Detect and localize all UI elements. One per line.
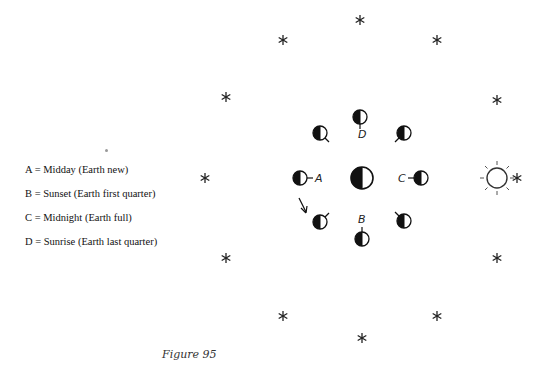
label-a: A <box>314 172 323 185</box>
star-icon <box>222 92 231 102</box>
star-icon <box>279 35 288 45</box>
label-b: B <box>358 213 366 226</box>
star-icon <box>358 333 367 343</box>
moon-position-bottom-left <box>313 213 329 229</box>
star-icon <box>493 253 502 263</box>
speck <box>105 149 108 152</box>
star-icon <box>433 311 442 321</box>
legend-item-b: B = Sunset (Earth first quarter) <box>25 187 157 211</box>
legend-item-c: C = Midnight (Earth full) <box>25 211 157 235</box>
legend-item-d: D = Sunrise (Earth last quarter) <box>25 235 157 259</box>
star-icon <box>279 311 288 321</box>
moon-position-a <box>293 171 313 185</box>
moon-position-top-left <box>313 126 329 142</box>
moon-position-bottom-right <box>395 212 411 228</box>
moon-position-d <box>353 110 367 129</box>
moon-position-c <box>408 171 428 185</box>
label-d: D <box>358 128 366 141</box>
earth-icon <box>351 167 373 189</box>
star-icon <box>433 35 442 45</box>
moon-position-b <box>355 227 369 246</box>
star-icon <box>493 95 502 105</box>
star-icon <box>356 15 365 25</box>
legend: A = Midday (Earth new) B = Sunset (Earth… <box>25 163 157 259</box>
label-c: C <box>398 172 406 185</box>
moon-position-top-right <box>395 126 411 142</box>
legend-item-a: A = Midday (Earth new) <box>25 163 157 187</box>
orbit-direction-arrow-icon <box>299 198 307 213</box>
sun-icon <box>480 161 514 195</box>
figure-caption: Figure 95 <box>162 348 217 361</box>
star-icon <box>201 173 210 183</box>
star-icon <box>222 253 231 263</box>
